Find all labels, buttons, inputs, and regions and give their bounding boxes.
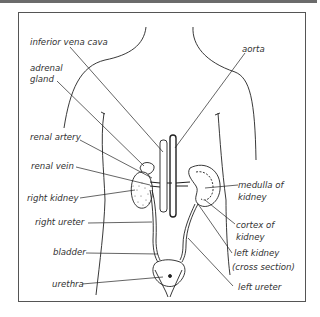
label-adrenal-gland-line1: adrenal [30, 63, 63, 74]
label-bladder: bladder [53, 247, 86, 258]
label-right-kidney: right kidney [27, 193, 79, 204]
leader-aorta [175, 53, 245, 148]
label-right-ureter: right ureter [35, 217, 84, 228]
label-left-kidney-line2: (cross section) [232, 262, 295, 273]
label-cortex-line2: kidney [236, 232, 265, 243]
label-renal-vein: renal vein [31, 161, 74, 172]
body-outline-left-arm [96, 113, 105, 295]
leader-inferior-vena-cava [70, 47, 163, 152]
leader-right-kidney [80, 190, 135, 198]
label-medulla-line1: medulla of [238, 180, 284, 191]
leader-adrenal-gland [57, 81, 144, 166]
label-adrenal-gland-line2: gland [30, 74, 54, 85]
label-medulla-line2: kidney [238, 192, 267, 203]
label-aorta: aorta [242, 44, 265, 55]
label-urethra: urethra [52, 279, 84, 290]
label-renal-artery: renal artery [30, 132, 81, 143]
label-left-ureter: left ureter [238, 282, 281, 293]
leader-renal-artery [80, 140, 152, 178]
label-cortex-line1: cortex of [236, 220, 274, 231]
leader-right-ureter [88, 222, 152, 223]
inferior-vena-cava [160, 140, 167, 212]
label-inferior-vena-cava: inferior vena cava [30, 37, 108, 48]
leader-urethra [82, 277, 163, 284]
body-outline-right-arm [218, 113, 230, 275]
leader-bladder [86, 253, 158, 254]
label-left-kidney-line1: left kidney [234, 248, 279, 259]
